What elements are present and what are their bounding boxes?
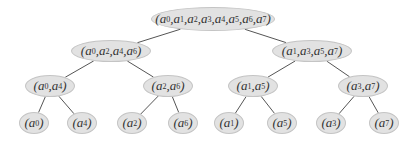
tree-node-leaf-1: (a1) [214, 112, 244, 134]
tree-edge [172, 97, 178, 113]
tree-node-leaf-6: (a6) [168, 112, 198, 134]
tree-node-n-odd: (a1,a3,a5,a7) [272, 40, 352, 62]
tree-edge [369, 97, 378, 113]
tree-edge [245, 29, 286, 42]
tree-node-leaf-2: (a2) [117, 112, 147, 134]
tree-node-leaf-7: (a7) [369, 112, 399, 134]
tree-edge [327, 61, 350, 77]
tree-edge [59, 96, 74, 113]
tree-edge [261, 96, 274, 113]
tree-edge [137, 29, 180, 43]
tree-edge [65, 61, 93, 77]
tree-node-leaf-4: (a4) [67, 112, 97, 134]
tree-node-leaf-3: (a3) [316, 112, 346, 134]
tree-node-n-04: (a0,a4) [25, 75, 75, 97]
tree-node-root: (a0,a1,a2,a3,a4,a5,a6,a7) [151, 7, 275, 31]
tree-node-n-26: (a2,a6) [143, 75, 193, 97]
tree-node-n-even: (a0,a2,a4,a6) [71, 40, 151, 62]
tree-node-leaf-0: (a0) [19, 112, 49, 134]
tree-node-n-37: (a3,a7) [338, 75, 388, 97]
tree-edge [127, 61, 153, 77]
tree-node-n-15: (a1,a5) [228, 75, 278, 97]
tree-edge [235, 97, 246, 113]
tree-node-leaf-5: (a5) [267, 112, 297, 134]
tree-edge [339, 96, 354, 113]
tree-edge [268, 61, 295, 77]
tree-edge [141, 96, 158, 114]
tree-edge [39, 97, 46, 113]
